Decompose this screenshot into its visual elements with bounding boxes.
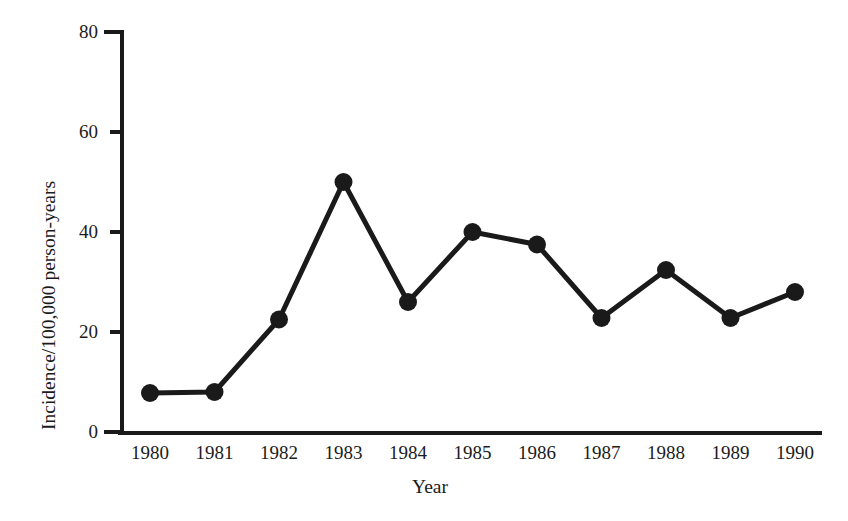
x-axis-title: Year [412,476,448,498]
data-point-marker [593,309,611,327]
x-axis-tick-label: 1988 [647,442,685,464]
x-axis-tick-label: 1980 [131,442,169,464]
y-axis-title: Incidence/100,000 person-years [38,181,60,430]
x-axis-tick-label: 1986 [518,442,556,464]
x-axis-tick-label: 1990 [776,442,814,464]
y-axis-tick-label: 40 [60,221,98,243]
x-axis-tick-label: 1984 [389,442,427,464]
data-line-path [150,182,795,393]
x-axis-tick-label: 1987 [583,442,621,464]
x-axis-tick-label: 1982 [260,442,298,464]
data-line [150,182,795,393]
x-axis-tick-label: 1983 [325,442,363,464]
data-markers [141,173,804,402]
data-point-marker [206,383,224,401]
data-point-marker [464,223,482,241]
chart-figure: 020406080 198019811982198319841985198619… [0,0,848,521]
y-axis-ticks [104,32,122,432]
data-point-marker [786,283,804,301]
data-point-marker [399,293,417,311]
data-point-marker [657,261,675,279]
y-axis-tick-label: 20 [60,321,98,343]
data-point-marker [528,236,546,254]
data-point-marker [270,311,288,329]
y-axis-tick-label: 60 [60,121,98,143]
y-axis-tick-label: 80 [60,21,98,43]
x-axis-tick-label: 1981 [196,442,234,464]
x-axis-tick-label: 1989 [712,442,750,464]
x-axis-tick-label: 1985 [454,442,492,464]
data-point-marker [335,173,353,191]
data-point-marker [722,309,740,327]
y-axis-tick-label: 0 [60,421,98,443]
data-point-marker [141,384,159,402]
